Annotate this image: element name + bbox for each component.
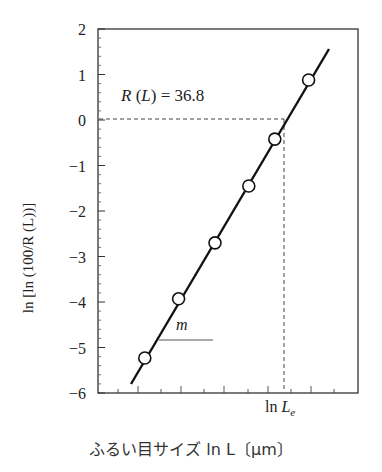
svg-text:−5: −5 xyxy=(69,340,86,357)
svg-text:−4: −4 xyxy=(69,294,86,311)
y-axis-label: ln [ln (100/R (L))] xyxy=(20,203,37,313)
x-axis-ticks xyxy=(118,386,334,393)
annotation-r-value: R (L) = 36.8 xyxy=(121,86,204,106)
y-axis-ticks: 210−1−2−3−4−5−6 xyxy=(69,21,105,402)
x-axis-label: ふるい目サイズ ln L〔μm〕 xyxy=(0,436,382,460)
data-point-marker xyxy=(139,352,151,364)
svg-text:−6: −6 xyxy=(69,385,86,402)
svg-text:0: 0 xyxy=(78,112,86,129)
svg-text:−2: −2 xyxy=(69,203,86,220)
data-point-marker xyxy=(243,180,255,192)
data-point-marker xyxy=(173,293,185,305)
ln-le-label: ln Le xyxy=(265,398,295,418)
data-point-marker xyxy=(303,74,315,86)
svg-text:1: 1 xyxy=(78,67,86,84)
data-point-marker xyxy=(269,133,281,145)
svg-text:2: 2 xyxy=(78,21,86,38)
svg-text:−1: −1 xyxy=(69,158,86,175)
svg-text:−3: −3 xyxy=(69,249,86,266)
slope-label: m xyxy=(176,316,188,334)
chart-canvas: 210−1−2−3−4−5−6 xyxy=(0,0,382,472)
plot-frame xyxy=(98,29,358,393)
data-point-marker xyxy=(209,237,221,249)
